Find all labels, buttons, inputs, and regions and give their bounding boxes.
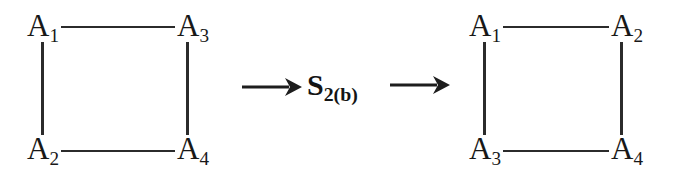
node-subscript: 4 — [633, 148, 643, 169]
node-subscript: 1 — [491, 25, 501, 46]
node-base: A — [177, 131, 199, 166]
node-subscript: 4 — [199, 148, 209, 169]
edge-right-right — [620, 42, 623, 135]
node-subscript: 3 — [199, 25, 209, 46]
node-base: A — [469, 131, 491, 166]
node-subscript: 1 — [49, 25, 59, 46]
edge-left-bottom — [61, 150, 175, 152]
operator-base: S — [307, 68, 324, 101]
node-left-top-left: A1 — [27, 10, 59, 41]
node-subscript: 3 — [491, 148, 501, 169]
node-right-bottom-left: A3 — [469, 133, 501, 164]
node-base: A — [27, 8, 49, 43]
edge-right-left — [483, 42, 486, 135]
node-right-top-right: A2 — [611, 10, 643, 41]
node-base: A — [469, 8, 491, 43]
node-base: A — [611, 8, 633, 43]
arrow-right-icon-before — [241, 74, 303, 100]
node-base: A — [611, 131, 633, 166]
arrow-right-icon-after — [389, 72, 451, 98]
operator-subscript: 2(b) — [324, 83, 358, 105]
edge-left-left — [41, 42, 44, 135]
edge-left-top — [61, 26, 175, 28]
edge-left-right — [186, 42, 189, 135]
node-right-top-left: A1 — [469, 10, 501, 41]
node-subscript: 2 — [633, 25, 643, 46]
edge-right-bottom — [503, 150, 609, 152]
node-right-bottom-right: A4 — [611, 133, 643, 164]
node-left-top-right: A3 — [177, 10, 209, 41]
node-base: A — [27, 131, 49, 166]
node-left-bottom-right: A4 — [177, 133, 209, 164]
node-left-bottom-left: A2 — [27, 133, 59, 164]
diagram-canvas: A1 A3 A2 A4 S2(b) — [0, 0, 682, 176]
node-subscript: 2 — [49, 148, 59, 169]
edge-right-top — [503, 26, 609, 28]
operator-label: S2(b) — [307, 70, 358, 100]
node-base: A — [177, 8, 199, 43]
